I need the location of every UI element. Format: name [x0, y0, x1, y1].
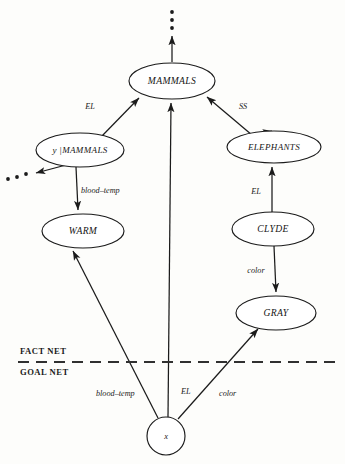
edge-x-to-gray [178, 329, 258, 419]
edge-label-el-goal: EL [180, 387, 191, 396]
edge-label-ss-elephants: SS [239, 102, 247, 111]
diagram-canvas: FACT NET GOAL NET MAMMALS y |MAMMALS ELE… [0, 0, 345, 464]
node-mammals[interactable]: MAMMALS [129, 63, 215, 99]
edge-label-blood-temp-upper: blood–temp [81, 186, 120, 195]
node-elephants[interactable]: ELEPHANTS [227, 131, 321, 163]
node-clyde[interactable]: CLYDE [232, 212, 314, 246]
edge-label-blood-temp-goal: blood–temp [96, 389, 135, 398]
fact-goal-partition: FACT NET GOAL NET [18, 346, 342, 377]
edge-label-el-clyde: EL [250, 187, 261, 196]
edge-clyde-to-gray [274, 246, 276, 292]
node-clyde-label: CLYDE [257, 223, 288, 234]
edge-label-el-y-mammals: EL [84, 102, 95, 111]
edge-label-color-clyde-gray: color [247, 266, 265, 275]
node-goal-variable-label: x [163, 432, 168, 441]
semantic-network-diagram: FACT NET GOAL NET MAMMALS y |MAMMALS ELE… [0, 0, 345, 464]
edge-y-mammals-to-warm [76, 167, 78, 210]
node-warm-label: WARM [69, 225, 98, 236]
node-warm[interactable]: WARM [42, 214, 124, 248]
goal-net-label: GOAL NET [20, 367, 69, 377]
node-mammals-label: MAMMALS [147, 75, 196, 86]
edge-y-mammals-to-mammals [101, 98, 139, 137]
node-y-mammals-label: y |MAMMALS [51, 145, 107, 155]
node-gray-label: GRAY [264, 307, 290, 318]
edge-label-color-goal: color [219, 389, 237, 398]
node-y-mammals[interactable]: y |MAMMALS [36, 133, 124, 167]
node-gray[interactable]: GRAY [236, 296, 316, 330]
edge-y-mammals-left-continuation [36, 165, 66, 173]
fact-net-label: FACT NET [20, 346, 66, 356]
top-continuation-dots [170, 10, 174, 30]
left-continuation-dots [6, 172, 28, 181]
node-goal-variable-x[interactable]: x [147, 417, 185, 455]
node-elephants-label: ELEPHANTS [247, 142, 300, 152]
edge-x-to-mammals [168, 103, 171, 417]
